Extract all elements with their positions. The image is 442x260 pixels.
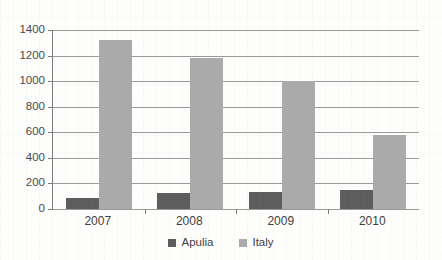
legend-label: Italy [252,237,273,249]
y-axis-tick-label: 400 [26,152,45,164]
y-axis-tick [48,81,53,82]
y-axis-tick [48,107,53,108]
bar-apulia-2009 [249,192,282,209]
y-axis-tick [48,183,53,184]
x-axis-tick [145,209,146,214]
bar-italy-2010 [373,135,406,209]
bar-italy-2009 [282,81,315,209]
legend-swatch-italy-icon [239,239,247,247]
x-axis-label-2009: 2009 [267,215,294,227]
y-axis-tick [48,30,53,31]
bar-chart: 0200400600800100012001400 20072008200920… [0,0,442,260]
y-axis-tick [48,56,53,57]
y-axis-tick-label: 200 [26,178,45,190]
y-axis-tick-label: 800 [26,101,45,113]
gridline [53,30,419,31]
x-axis-label-2010: 2010 [359,215,386,227]
y-axis-tick-label: 0 [39,203,45,215]
x-axis-label-2007: 2007 [84,215,111,227]
bar-italy-2007 [99,40,132,209]
bar-apulia-2007 [66,198,99,209]
plot-area: 0200400600800100012001400 [52,30,419,210]
y-axis-tick [48,158,53,159]
y-axis-tick-label: 600 [26,127,45,139]
chart-legend: ApuliaItaly [0,237,442,249]
x-axis-label-2008: 2008 [176,215,203,227]
y-axis-tick-label: 1400 [19,24,45,36]
legend-swatch-apulia-icon [168,239,176,247]
bar-apulia-2010 [340,190,373,209]
y-axis-tick [48,209,53,210]
bar-apulia-2008 [157,193,190,209]
x-axis-tick [236,209,237,214]
legend-entry-italy[interactable]: Italy [239,237,273,249]
y-axis-tick-label: 1000 [19,75,45,87]
bar-italy-2008 [190,58,223,209]
y-axis-tick [48,132,53,133]
y-axis-tick-label: 1200 [19,50,45,62]
legend-label: Apulia [181,237,213,249]
legend-entry-apulia[interactable]: Apulia [168,237,213,249]
x-axis-tick [328,209,329,214]
